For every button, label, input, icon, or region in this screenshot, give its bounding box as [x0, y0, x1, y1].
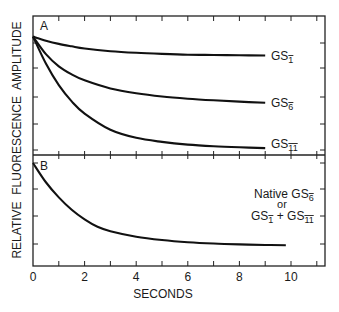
x-tick-label: 2	[81, 270, 88, 284]
x-tick-label: 6	[184, 270, 191, 284]
annotation-combo: GS1 + GS11	[251, 209, 314, 225]
series-label-gs11: GS11	[271, 137, 298, 153]
panel-b-label: B	[40, 159, 48, 173]
curve-panel-b	[33, 163, 286, 245]
x-tick-label: 10	[284, 270, 298, 284]
y-axis-title: RELATIVE FLUORESCENCE AMPLITUDE	[10, 21, 24, 258]
series-label-gs1: GS1	[271, 49, 293, 65]
x-tick-label: 4	[133, 270, 140, 284]
curve-gs1-	[33, 37, 265, 56]
series-label-gs6: GS6	[271, 96, 293, 112]
x-tick-label: 8	[236, 270, 243, 284]
data-curves	[33, 37, 286, 246]
x-tick-label: 0	[30, 270, 37, 284]
x-tick-labels: 0246810	[30, 270, 298, 284]
panel-a-label: A	[40, 19, 48, 33]
x-axis-title: SECONDS	[133, 287, 192, 301]
figure: A B GS1 GS6 GS11 Native GS6 or GS1 + GS1…	[0, 0, 339, 312]
